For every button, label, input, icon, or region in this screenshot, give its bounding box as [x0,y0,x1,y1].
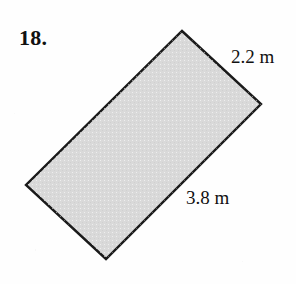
rectangle-halftone-texture [26,31,261,259]
dimension-label-short-side: 2.2 m [231,47,274,66]
dimension-label-long-side: 3.8 m [186,188,229,207]
problem-number: 18. [19,27,47,49]
figure-page: 18. 2.2 m 3.8 m [0,0,296,284]
